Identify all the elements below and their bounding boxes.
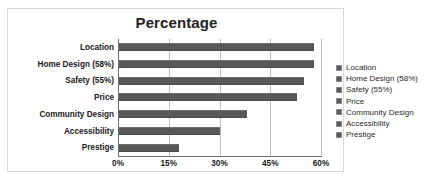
chart-title: Percentage [8, 14, 345, 31]
bar[interactable] [118, 127, 220, 135]
y-axis-line [118, 39, 119, 157]
bar[interactable] [118, 43, 314, 51]
bar-row[interactable] [118, 72, 321, 89]
legend-item[interactable]: Price [336, 96, 436, 107]
legend-swatch-icon [336, 121, 342, 127]
y-axis-label: Home Design (58%) [8, 60, 114, 69]
bar-row[interactable] [118, 56, 321, 73]
y-axis-label: Prestige [8, 143, 114, 152]
x-axis-tick-label: 30% [211, 159, 227, 168]
legend-item[interactable]: Home Design (58%) [336, 73, 436, 84]
x-axis-tick-label: 15% [161, 159, 177, 168]
legend-swatch-icon [336, 76, 342, 82]
y-axis-label: Price [8, 93, 114, 102]
legend-item[interactable]: Accessibility [336, 118, 436, 129]
legend-label: Price [346, 97, 364, 106]
y-axis-label: Accessibility [8, 127, 114, 136]
bar[interactable] [118, 144, 179, 152]
legend-item[interactable]: Prestige [336, 129, 436, 140]
x-axis-tick-label: 45% [262, 159, 278, 168]
x-axis-tick-labels: 0%15%30%45%60% [118, 159, 322, 173]
legend-swatch-icon [336, 98, 342, 104]
legend-label: Community Design [346, 108, 414, 117]
bar[interactable] [118, 110, 247, 118]
y-axis-label: Location [8, 43, 114, 52]
legend-swatch-icon [336, 109, 342, 115]
legend-item[interactable]: Safety (55%) [336, 84, 436, 95]
legend-swatch-icon [336, 87, 342, 93]
x-axis-line [118, 156, 322, 157]
bar-row[interactable] [118, 106, 321, 123]
bar[interactable] [118, 77, 304, 85]
legend-item[interactable]: Location [336, 62, 436, 73]
y-axis-label: Community Design [8, 110, 114, 119]
legend-swatch-icon [336, 132, 342, 138]
legend-label: Home Design (58%) [346, 74, 418, 83]
legend-item[interactable]: Community Design [336, 107, 436, 118]
bar-row[interactable] [118, 123, 321, 140]
y-axis-label: Safety (55%) [8, 76, 114, 85]
x-axis-tick-label: 60% [313, 159, 329, 168]
legend-swatch-icon [336, 65, 342, 71]
bar-row[interactable] [118, 139, 321, 156]
legend-label: Accessibility [346, 119, 390, 128]
legend-label: Prestige [346, 130, 375, 139]
bar-row[interactable] [118, 89, 321, 106]
bar-row[interactable] [118, 39, 321, 56]
legend-label: Safety (55%) [346, 85, 392, 94]
bar[interactable] [118, 93, 297, 101]
chart-legend: LocationHome Design (58%)Safety (55%)Pri… [336, 62, 436, 140]
gridline [321, 39, 322, 156]
plot-area [118, 39, 321, 156]
legend-label: Location [346, 63, 376, 72]
bar[interactable] [118, 60, 314, 68]
y-axis-category-labels: LocationHome Design (58%)Safety (55%)Pri… [8, 39, 114, 156]
chart-frame: Percentage LocationHome Design (58%)Safe… [7, 8, 344, 172]
x-axis-tick-label: 0% [112, 159, 124, 168]
